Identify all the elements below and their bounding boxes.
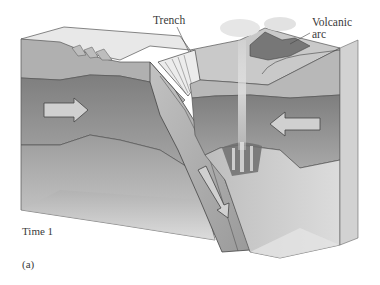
time-label: Time 1 — [22, 225, 53, 237]
subduction-block-diagram — [0, 0, 380, 285]
volcanic-arc-label-line2: arc — [312, 28, 326, 40]
eruption-plume — [220, 19, 260, 37]
magma-column — [238, 40, 246, 150]
volcanic-arc-label-line1: Volcanic — [312, 16, 352, 28]
panel-label: (a) — [22, 258, 34, 270]
trench-label: Trench — [153, 14, 185, 26]
block-right-face — [340, 40, 358, 245]
eruption-plume-2 — [264, 17, 296, 31]
